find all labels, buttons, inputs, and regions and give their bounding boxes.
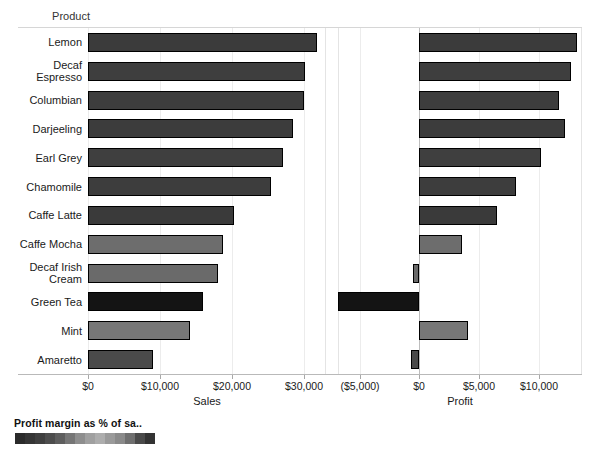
bar-profit-decaf-irish-cream[interactable]: [413, 264, 419, 283]
legend-swatch: [25, 433, 35, 444]
row-label-chamomile[interactable]: Chamomile: [2, 181, 82, 193]
sales-panel: [88, 28, 326, 374]
row-label-line: Mint: [2, 325, 82, 337]
axis-tick: [88, 375, 89, 379]
bar-sales-caffe-latte[interactable]: [88, 206, 234, 225]
row-label-decaf-irish-cream[interactable]: Decaf IrishCream: [2, 261, 82, 285]
axis-tick-label: $0: [82, 380, 94, 392]
bar-profit-decaf-espresso[interactable]: [419, 62, 571, 81]
axis-tick: [160, 375, 161, 379]
row-label-darjeeling[interactable]: Darjeeling: [2, 123, 82, 135]
bar-sales-caffe-mocha[interactable]: [88, 235, 223, 254]
profit-axis: Profit ($5,000)$0$5,000$10,000: [338, 375, 582, 409]
axis-tick-label: $30,000: [285, 380, 323, 392]
row-label-line: Darjeeling: [2, 123, 82, 135]
axis-tick-label: ($5,000): [340, 380, 379, 392]
legend-swatch: [55, 433, 65, 444]
legend-swatch: [85, 433, 95, 444]
legend-swatch: [145, 433, 155, 444]
bar-sales-darjeeling[interactable]: [88, 119, 293, 138]
legend-swatch: [115, 433, 125, 444]
row-label-caffe-mocha[interactable]: Caffe Mocha: [2, 238, 82, 250]
legend-swatch: [125, 433, 135, 444]
bar-profit-columbian[interactable]: [419, 91, 559, 110]
gridline: [360, 28, 361, 374]
visualization-canvas: Product LemonDecafEspressoColumbianDarje…: [0, 0, 591, 449]
row-label-green-tea[interactable]: Green Tea: [2, 296, 82, 308]
bar-profit-earl-grey[interactable]: [419, 148, 541, 167]
product-column-header: Product: [18, 10, 90, 23]
row-label-lemon[interactable]: Lemon: [2, 36, 82, 48]
bar-sales-columbian[interactable]: [88, 91, 304, 110]
legend-swatch: [65, 433, 75, 444]
bar-profit-caffe-latte[interactable]: [419, 206, 497, 225]
axis-tick-label: $10,000: [141, 380, 179, 392]
legend-title: Profit margin as % of sa..: [14, 417, 274, 429]
row-label-column: LemonDecafEspressoColumbianDarjeelingEar…: [0, 28, 88, 374]
legend-swatch: [105, 433, 115, 444]
axis-tick: [304, 375, 305, 379]
row-label-earl-grey[interactable]: Earl Grey: [2, 152, 82, 164]
legend-swatch: [135, 433, 145, 444]
bar-sales-chamomile[interactable]: [88, 177, 271, 196]
row-label-line: Caffe Latte: [2, 209, 82, 221]
row-label-line: Green Tea: [2, 296, 82, 308]
row-label-line: Amaretto: [2, 354, 82, 366]
bar-profit-green-tea[interactable]: [338, 292, 419, 311]
legend-swatch: [75, 433, 85, 444]
bar-sales-decaf-espresso[interactable]: [88, 62, 305, 81]
axis-tick: [479, 375, 480, 379]
bar-sales-decaf-irish-cream[interactable]: [88, 264, 218, 283]
bar-profit-chamomile[interactable]: [419, 177, 516, 196]
axis-tick: [419, 375, 420, 379]
row-label-columbian[interactable]: Columbian: [2, 94, 82, 106]
legend-swatch: [15, 433, 25, 444]
legend: Profit margin as % of sa..: [14, 417, 274, 445]
axis-tick-label: $5,000: [463, 380, 495, 392]
row-label-decaf-espresso[interactable]: DecafEspresso: [2, 59, 82, 83]
row-label-caffe-latte[interactable]: Caffe Latte: [2, 209, 82, 221]
legend-swatch: [95, 433, 105, 444]
axis-tick: [360, 375, 361, 379]
bar-sales-earl-grey[interactable]: [88, 148, 283, 167]
row-label-line: Chamomile: [2, 181, 82, 193]
bar-sales-lemon[interactable]: [88, 33, 317, 52]
row-label-line: Earl Grey: [2, 152, 82, 164]
sales-axis: Sales $0$10,000$20,000$30,000: [88, 375, 326, 409]
bar-profit-amaretto[interactable]: [411, 350, 419, 369]
axis-tick-label: $0: [413, 380, 425, 392]
row-label-line: Decaf Irish: [2, 261, 82, 273]
bar-profit-darjeeling[interactable]: [419, 119, 565, 138]
bar-sales-amaretto[interactable]: [88, 350, 153, 369]
row-label-amaretto[interactable]: Amaretto: [2, 354, 82, 366]
dimension-header-row: Product: [0, 6, 591, 26]
axis-tick: [232, 375, 233, 379]
row-label-line: Columbian: [2, 94, 82, 106]
bar-sales-mint[interactable]: [88, 321, 190, 340]
legend-swatch: [35, 433, 45, 444]
bar-sales-green-tea[interactable]: [88, 292, 203, 311]
legend-swatch: [45, 433, 55, 444]
row-label-line: Cream: [2, 273, 82, 285]
row-label-line: Caffe Mocha: [2, 238, 82, 250]
bar-profit-caffe-mocha[interactable]: [419, 235, 462, 254]
bar-profit-lemon[interactable]: [419, 33, 577, 52]
sales-axis-title: Sales: [88, 395, 326, 407]
legend-color-ramp[interactable]: [14, 432, 156, 445]
axis-tick-label: $20,000: [213, 380, 251, 392]
row-label-line: Lemon: [2, 36, 82, 48]
row-label-mint[interactable]: Mint: [2, 325, 82, 337]
profit-panel: [338, 28, 582, 374]
row-label-line: Espresso: [2, 71, 82, 83]
axis-tick-label: $10,000: [520, 380, 558, 392]
row-label-line: Decaf: [2, 59, 82, 71]
bar-profit-mint[interactable]: [419, 321, 468, 340]
profit-axis-title: Profit: [338, 395, 582, 407]
axis-tick: [539, 375, 540, 379]
